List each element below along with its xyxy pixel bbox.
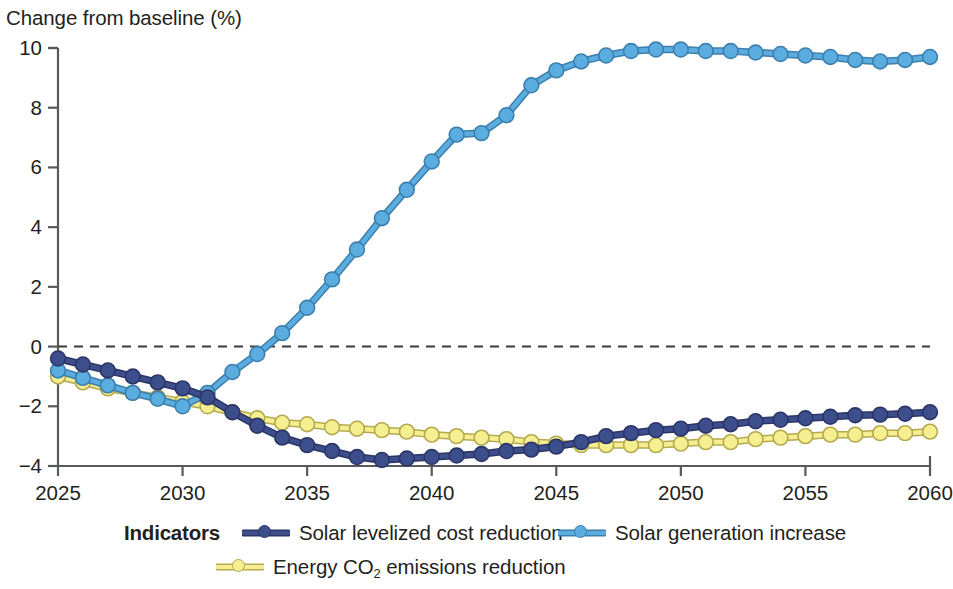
- x-tick-label: 2060: [907, 481, 953, 504]
- data-point: [350, 242, 365, 257]
- data-point: [673, 421, 688, 436]
- data-point: [798, 429, 813, 444]
- data-point: [923, 424, 938, 439]
- data-point: [549, 63, 564, 78]
- legend-entry-energy-co2-emissions-reduction[interactable]: Energy CO2 emissions reduction: [216, 555, 566, 579]
- data-point: [773, 430, 788, 445]
- y-tick-label: 0: [31, 335, 42, 358]
- data-point: [449, 429, 464, 444]
- data-point: [898, 426, 913, 441]
- data-point: [798, 411, 813, 426]
- data-point: [250, 418, 265, 433]
- data-point: [673, 42, 688, 57]
- legend-entry-solar-generation-increase[interactable]: Solar generation increase: [558, 521, 846, 545]
- x-tick-label: 2035: [284, 481, 330, 504]
- data-point: [723, 44, 738, 59]
- data-point: [723, 417, 738, 432]
- data-point: [673, 436, 688, 451]
- data-point: [873, 407, 888, 422]
- data-point: [300, 417, 315, 432]
- x-axis-ticks: 20252030203520402045205020552060: [35, 466, 953, 504]
- data-point: [698, 435, 713, 450]
- data-point: [524, 78, 539, 93]
- chart-figure: Change from baseline (%) −4−20246810 202…: [0, 0, 953, 589]
- data-point: [748, 45, 763, 60]
- y-tick-label: 6: [31, 155, 42, 178]
- data-point: [125, 385, 140, 400]
- data-point: [798, 48, 813, 63]
- legend-row-third: Energy CO2 emissions reduction: [216, 555, 566, 579]
- data-point: [374, 453, 389, 468]
- data-point: [823, 50, 838, 65]
- data-point: [325, 420, 340, 435]
- data-point: [748, 432, 763, 447]
- data-point: [275, 326, 290, 341]
- data-point: [76, 371, 91, 386]
- data-point: [923, 50, 938, 65]
- legend-label-solar-levelized-cost-reduction: Solar levelized cost reduction: [299, 521, 563, 545]
- y-axis-ticks: −4−20246810: [19, 36, 58, 477]
- data-point: [848, 408, 863, 423]
- data-point: [748, 414, 763, 429]
- x-tick-label: 2025: [35, 481, 81, 504]
- data-point: [350, 450, 365, 465]
- y-tick-label: 4: [31, 215, 42, 238]
- data-point: [374, 211, 389, 226]
- data-point: [624, 426, 639, 441]
- data-point: [175, 381, 190, 396]
- data-point: [424, 450, 439, 465]
- legend-row-first: Indicators Solar levelized cost reductio…: [124, 521, 563, 545]
- data-point: [399, 451, 414, 466]
- data-point: [773, 47, 788, 62]
- legend-entry-solar-levelized-cost-reduction[interactable]: Solar levelized cost reduction: [242, 521, 563, 545]
- data-point: [574, 54, 589, 69]
- y-tick-label: −2: [19, 394, 42, 417]
- data-point: [325, 272, 340, 287]
- data-point: [599, 48, 614, 63]
- data-point: [698, 44, 713, 59]
- legend-swatch-icon-dark-blue: [242, 523, 290, 543]
- data-point: [474, 447, 489, 462]
- data-point: [325, 444, 340, 459]
- data-point: [823, 409, 838, 424]
- data-point: [499, 444, 514, 459]
- y-tick-label: 8: [31, 96, 42, 119]
- data-point: [399, 182, 414, 197]
- data-point: [698, 418, 713, 433]
- data-point: [275, 415, 290, 430]
- data-point: [574, 435, 589, 450]
- legend-label-solar-generation-increase: Solar generation increase: [615, 521, 846, 545]
- data-point: [898, 53, 913, 68]
- x-tick-label: 2030: [160, 481, 206, 504]
- data-point: [474, 126, 489, 141]
- data-point: [275, 430, 290, 445]
- legend-row-second-column: Solar generation increase: [558, 521, 846, 545]
- data-point: [374, 423, 389, 438]
- data-point: [150, 391, 165, 406]
- data-point: [524, 442, 539, 457]
- data-point: [624, 44, 639, 59]
- data-point: [474, 430, 489, 445]
- legend-label-energy-co2-emissions-reduction: Energy CO2 emissions reduction: [273, 555, 566, 579]
- series-solar-generation-increase: [51, 42, 938, 414]
- data-point: [649, 42, 664, 57]
- data-point: [449, 127, 464, 142]
- data-point: [100, 363, 115, 378]
- data-point: [300, 300, 315, 315]
- data-point: [424, 427, 439, 442]
- data-point: [773, 412, 788, 427]
- data-point: [250, 347, 265, 362]
- data-point: [848, 427, 863, 442]
- y-tick-label: 2: [31, 275, 42, 298]
- data-point: [848, 53, 863, 68]
- data-point: [51, 351, 66, 366]
- data-point: [923, 405, 938, 420]
- data-point: [873, 54, 888, 69]
- data-point: [898, 406, 913, 421]
- data-point: [499, 108, 514, 123]
- data-point: [175, 399, 190, 414]
- data-point: [399, 424, 414, 439]
- y-tick-label: 10: [19, 36, 42, 59]
- data-point: [150, 375, 165, 390]
- data-point: [549, 439, 564, 454]
